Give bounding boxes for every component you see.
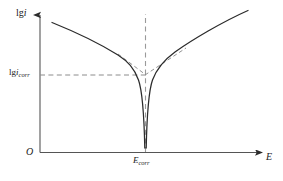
polarization-curve-cathodic [52,23,145,149]
tafel-asymptote-anodic-line [145,48,186,75]
tafel-plot-figure: lgi lgicorr Ecorr E O [0,0,283,181]
x-tick-label-corrosion-potential: Ecorr [133,156,150,165]
polarization-curve-anodic [146,11,248,149]
x-axis-title: E [266,152,272,162]
y-axis-title-var: i [24,7,27,18]
y-tick-lg: lg [9,67,16,77]
y-tick-subscript: corr [19,71,30,78]
tafel-asymptote-cathodic-line [118,54,146,75]
y-axis-title: lgi [16,8,27,18]
origin-label: O [26,147,33,157]
plot-canvas [0,0,283,181]
y-axis-title-lg: lg [16,7,24,18]
x-tick-subscript: corr [139,159,150,166]
x-tick-var: E [133,155,139,165]
y-tick-label-corrosion-current: lgicorr [9,68,30,77]
